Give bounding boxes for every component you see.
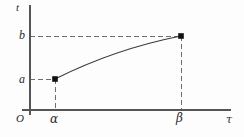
t-axis-label: t [16,2,19,13]
tick-label-alpha: α [50,113,58,125]
value-label-a: a [19,73,25,85]
curve-path [55,36,181,79]
value-label-b: b [19,29,25,41]
tick-label-beta: β [176,112,183,124]
origin-label: O [16,113,24,124]
figure-canvas: t b a O α β τ [0,0,244,137]
tau-axis-label: τ [226,114,232,125]
left-endpoint-marker [52,76,58,82]
figure-graphics [0,0,244,137]
right-endpoint-marker [178,33,184,39]
